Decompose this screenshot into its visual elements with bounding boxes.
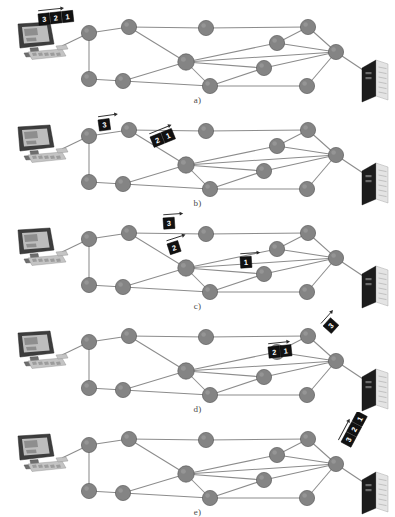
node-highlight bbox=[201, 435, 206, 440]
node-highlight bbox=[302, 287, 307, 292]
network-node bbox=[202, 490, 217, 505]
network-edge bbox=[186, 62, 264, 68]
node-highlight bbox=[259, 475, 264, 480]
network-node bbox=[81, 483, 96, 498]
network-node bbox=[115, 485, 130, 500]
network-node bbox=[81, 437, 96, 452]
direction-arrow-head bbox=[346, 418, 351, 423]
packet-group: 321 bbox=[336, 412, 367, 447]
network-node bbox=[328, 250, 343, 265]
network-node bbox=[300, 328, 315, 343]
node-highlight bbox=[84, 486, 89, 491]
direction-arrow-head bbox=[256, 250, 260, 254]
node-highlight bbox=[205, 287, 210, 292]
network-edge bbox=[123, 268, 186, 287]
network-edge bbox=[123, 371, 186, 390]
node-highlight bbox=[331, 459, 336, 464]
node-highlight bbox=[181, 366, 186, 371]
panel-caption-e: e) bbox=[0, 507, 395, 517]
network-diagram-a: 321 bbox=[0, 0, 395, 103]
desktop-computer-icon bbox=[18, 228, 68, 266]
network-node bbox=[328, 353, 343, 368]
node-highlight bbox=[272, 244, 277, 249]
network-node bbox=[202, 181, 217, 196]
network-edge bbox=[129, 336, 186, 371]
node-highlight bbox=[302, 390, 307, 395]
packet-group: 2 bbox=[165, 233, 190, 255]
network-node bbox=[328, 44, 343, 59]
network-node bbox=[81, 174, 96, 189]
network-edge bbox=[129, 27, 186, 62]
network-node bbox=[81, 71, 96, 86]
network-node bbox=[256, 163, 271, 178]
node-highlight bbox=[124, 434, 129, 439]
network-node bbox=[269, 35, 284, 50]
node-highlight bbox=[201, 332, 206, 337]
network-node bbox=[81, 380, 96, 395]
node-highlight bbox=[124, 22, 129, 27]
packet-group: 3 bbox=[97, 112, 120, 131]
direction-arrow-head bbox=[286, 339, 290, 343]
network-node bbox=[300, 225, 315, 240]
desktop-computer-icon bbox=[18, 22, 68, 60]
direction-arrow-line bbox=[98, 114, 115, 116]
node-highlight bbox=[118, 76, 123, 81]
network-node bbox=[299, 181, 314, 196]
panel-a: 321a) bbox=[0, 0, 395, 103]
network-node bbox=[178, 260, 194, 276]
direction-arrow-head bbox=[179, 211, 183, 215]
node-highlight bbox=[205, 493, 210, 498]
node-highlight bbox=[272, 141, 277, 146]
network-diagram-b: 321 bbox=[0, 103, 395, 206]
node-highlight bbox=[302, 81, 307, 86]
direction-arrow-line bbox=[166, 236, 182, 241]
network-edge bbox=[129, 336, 206, 337]
network-node bbox=[198, 123, 213, 138]
network-node bbox=[115, 382, 130, 397]
network-node bbox=[202, 78, 217, 93]
network-node bbox=[198, 20, 213, 35]
node-highlight bbox=[201, 23, 206, 28]
network-node bbox=[256, 369, 271, 384]
node-highlight bbox=[118, 282, 123, 287]
network-edge bbox=[123, 474, 186, 493]
node-highlight bbox=[201, 126, 206, 131]
direction-arrow-line bbox=[163, 214, 180, 215]
network-edge bbox=[210, 480, 264, 498]
network-node bbox=[202, 284, 217, 299]
network-edge bbox=[186, 165, 264, 171]
node-highlight bbox=[201, 229, 206, 234]
panel-c: 321c) bbox=[0, 206, 395, 309]
node-highlight bbox=[181, 469, 186, 474]
node-highlight bbox=[84, 234, 89, 239]
node-highlight bbox=[84, 280, 89, 285]
network-node bbox=[198, 432, 213, 447]
network-edge bbox=[129, 233, 206, 234]
network-edge bbox=[210, 171, 264, 189]
node-highlight bbox=[303, 228, 308, 233]
panel-e: 321e) bbox=[0, 412, 395, 515]
node-highlight bbox=[259, 269, 264, 274]
network-node bbox=[328, 147, 343, 162]
network-node bbox=[178, 157, 194, 173]
desktop-computer-icon bbox=[18, 434, 68, 472]
network-edge bbox=[210, 377, 264, 395]
packet-group: 1 bbox=[240, 250, 262, 268]
node-highlight bbox=[84, 28, 89, 33]
node-highlight bbox=[84, 440, 89, 445]
network-node bbox=[256, 266, 271, 281]
node-highlight bbox=[331, 150, 336, 155]
network-node bbox=[198, 226, 213, 241]
network-node bbox=[300, 19, 315, 34]
network-diagram-e: 321 bbox=[0, 412, 395, 515]
network-edge bbox=[129, 439, 206, 440]
node-highlight bbox=[84, 74, 89, 79]
network-edge bbox=[206, 27, 308, 28]
network-edge bbox=[206, 439, 308, 440]
panel-b: 321b) bbox=[0, 103, 395, 206]
node-highlight bbox=[84, 131, 89, 136]
node-highlight bbox=[303, 331, 308, 336]
network-node bbox=[121, 225, 136, 240]
network-node bbox=[81, 231, 96, 246]
network-node bbox=[121, 122, 136, 137]
